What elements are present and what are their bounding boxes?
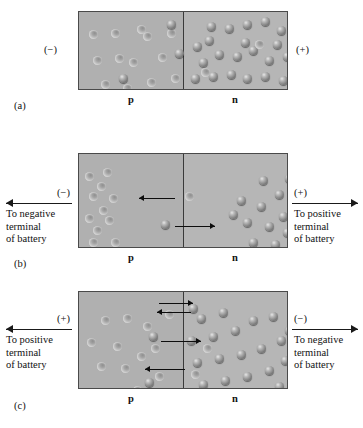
electron-carrier <box>149 332 158 341</box>
electron-carrier <box>273 40 282 49</box>
electron-carrier <box>207 22 216 31</box>
panel-b-left-battery-arrow <box>6 199 72 208</box>
panel-a-n-label: n <box>232 94 238 106</box>
hole-carrier <box>201 68 210 77</box>
electron-carrier <box>145 378 154 387</box>
electron-carrier <box>243 20 252 29</box>
electron-carrier <box>261 17 270 26</box>
electron-carrier <box>249 238 258 247</box>
electron-carrier <box>199 58 208 67</box>
hole-carrier <box>129 58 138 67</box>
electron-carrier <box>271 240 280 248</box>
electron-carrier <box>261 72 270 81</box>
hole-carrier <box>115 54 124 63</box>
electron-carrier <box>243 218 252 227</box>
hole-carrier <box>91 388 100 389</box>
panel-b-left-terminal-line3: of battery <box>6 233 55 246</box>
panel-b-left-sign: (−) <box>57 187 70 199</box>
hole-carrier <box>89 192 98 201</box>
electron-carrier-junction <box>161 220 170 229</box>
panel-c-electron-injection-arrow-2 <box>145 366 185 373</box>
hole-carrier <box>155 372 164 381</box>
panel-c-left-terminal-line3: of battery <box>6 359 53 372</box>
hole-carrier <box>89 30 98 39</box>
panel-b-right-sign: (+) <box>294 187 307 199</box>
electron-carrier <box>209 332 218 341</box>
electron-carrier <box>259 176 268 185</box>
panel-c-left-terminal-text: To positive terminal of battery <box>6 334 53 372</box>
hole-carrier <box>97 182 106 191</box>
panel-b-left-terminal-line2: terminal <box>6 221 55 234</box>
hole-carrier <box>203 344 212 353</box>
panel-b-left-terminal-line1: To negative <box>6 208 55 221</box>
hole-carrier <box>85 214 94 223</box>
electron-carrier <box>215 354 224 363</box>
electron-carrier <box>215 50 224 59</box>
electron-carrier <box>175 49 184 58</box>
hole-carrier <box>89 238 98 247</box>
panel-c-electron-injection-arrow-1 <box>159 300 193 307</box>
hole-carrier <box>151 344 160 353</box>
electron-carrier <box>249 316 258 325</box>
electron-carrier <box>283 228 288 237</box>
hole-carrier <box>255 40 264 49</box>
electron-carrier <box>275 190 284 199</box>
hole-carrier <box>93 56 102 65</box>
electron-carrier <box>279 76 288 85</box>
electron-carrier <box>193 42 202 51</box>
hole-carrier <box>158 53 167 62</box>
panel-c-right-terminal-line1: To negative <box>294 334 343 347</box>
electron-carrier <box>265 222 274 231</box>
hole-carrier <box>101 80 110 89</box>
panel-c-right-terminal-text: To negative terminal of battery <box>294 334 343 372</box>
panel-a-junction-box <box>78 11 288 90</box>
panel-c-junction-box <box>78 291 288 389</box>
electron-carrier <box>257 202 266 211</box>
hole-carrier <box>143 322 152 331</box>
electron-carrier <box>119 74 128 83</box>
panel-c-right-sign: (−) <box>294 313 307 325</box>
hole-carrier <box>191 370 200 379</box>
electron-carrier <box>219 308 228 317</box>
panel-b-tag: (b) <box>14 258 26 270</box>
electron-carrier <box>279 212 288 221</box>
hole-carrier <box>93 226 102 235</box>
panel-b-right-terminal-text: To positive terminal of battery <box>294 208 341 246</box>
panel-b-junction-divider <box>183 154 184 247</box>
electron-carrier <box>193 358 202 367</box>
hole-carrier <box>109 194 118 203</box>
panel-b-electron-drift-arrow <box>175 223 215 230</box>
electron-carrier <box>283 52 288 61</box>
electron-carrier <box>229 210 238 219</box>
panel-a-left-sign: (−) <box>44 44 57 56</box>
panel-a-right-sign: (+) <box>296 44 309 56</box>
hole-carrier <box>85 172 94 181</box>
electron-carrier <box>237 196 246 205</box>
electron-carrier <box>225 24 234 33</box>
panel-b-n-label: n <box>232 252 238 264</box>
panel-c-right-terminal-line3: of battery <box>294 359 343 372</box>
electron-carrier <box>183 388 192 389</box>
hole-carrier <box>123 314 132 323</box>
electron-carrier <box>275 382 284 389</box>
electron-carrier <box>231 326 240 335</box>
panel-b-hole-drift-arrow <box>139 195 175 202</box>
panel-c-right-terminal-line2: terminal <box>294 347 343 360</box>
hole-carrier <box>101 316 110 325</box>
panel-c-left-sign: (+) <box>57 313 70 325</box>
electron-carrier <box>265 56 274 65</box>
panel-b-right-terminal-line2: terminal <box>294 221 341 234</box>
hole-carrier <box>97 362 106 371</box>
electron-carrier <box>227 70 236 79</box>
hole-carrier <box>111 238 120 247</box>
panel-b-n-region <box>184 154 288 247</box>
panel-c-hole-injection-arrow-2 <box>161 338 201 345</box>
electron-carrier <box>285 174 288 183</box>
panel-c-left-battery-arrow <box>6 325 72 334</box>
panel-c-n-label: n <box>232 393 238 405</box>
electron-carrier <box>205 36 214 45</box>
electron-carrier <box>221 376 230 385</box>
hole-carrier <box>109 388 118 389</box>
electron-carrier <box>285 326 288 335</box>
electron-carrier <box>277 336 286 345</box>
